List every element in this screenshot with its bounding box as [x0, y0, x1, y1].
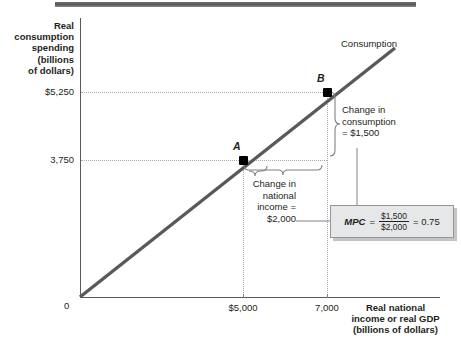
brace-change-in-consumption: [330, 92, 340, 156]
mpc-denominator: $2,000: [379, 222, 409, 232]
consumption-function-figure: Real consumption spending (billions of d…: [0, 0, 461, 348]
data-point-a: [239, 156, 248, 165]
mpc-equals-sign: =: [369, 216, 375, 227]
y-tick-label-3750: 3,750: [10, 154, 74, 165]
series-label-consumption: Consumption: [341, 38, 397, 49]
gridline-y-3750: [81, 160, 327, 161]
y-axis-line: [80, 18, 81, 298]
x-axis-line: [80, 297, 440, 298]
x-tick-label-5000: $5,000: [213, 302, 273, 313]
data-point-b: [323, 88, 332, 97]
gridline-x-7000: [327, 92, 328, 297]
data-point-a-label: A: [233, 140, 241, 152]
data-point-b-label: B: [317, 72, 325, 84]
gridline-y-5250: [81, 92, 327, 93]
annotation-change-in-national-income: Change in national income = $2,000: [206, 178, 296, 224]
origin-label: 0: [64, 300, 69, 311]
mpc-numerator: $1,500: [379, 212, 409, 222]
x-tickmark-5000: [243, 294, 244, 298]
brace-change-in-national-income: [244, 165, 322, 175]
mpc-result: = 0.75: [413, 216, 440, 227]
mpc-label: MPC: [344, 216, 365, 227]
y-tick-label-5250: $5,250: [10, 86, 74, 97]
annotation-change-in-consumption: Change in consumption = $1,500: [342, 104, 442, 139]
x-tick-label-7000: 7,000: [299, 302, 355, 313]
header-rule: [55, 2, 416, 7]
mpc-callout-box: MPC = $1,500 $2,000 = 0.75: [330, 205, 454, 238]
consumption-line: [80, 48, 395, 297]
brace-tick-left: [249, 166, 267, 176]
y-axis-title: Real consumption spending (billions of d…: [0, 20, 74, 76]
x-tickmark-7000: [327, 294, 328, 298]
mpc-fraction: $1,500 $2,000: [379, 212, 409, 232]
